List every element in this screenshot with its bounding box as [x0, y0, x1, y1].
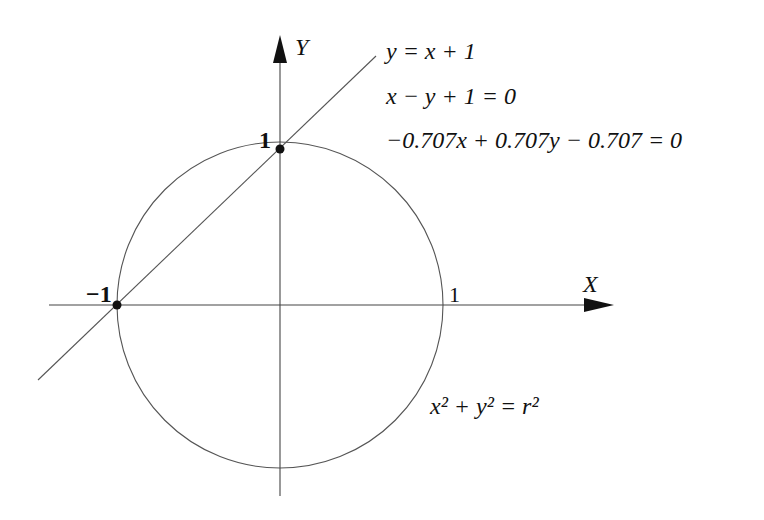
equation-normal-form: −0.707x + 0.707y − 0.707 = 0 — [386, 127, 682, 153]
circle-equation: x² + y² = r² — [429, 393, 539, 419]
y-axis-label: Y — [295, 34, 311, 60]
tick-label-y-1: 1 — [259, 127, 271, 153]
x-axis-label: X — [582, 271, 599, 297]
y-axis-arrow-icon — [273, 35, 287, 63]
diagram-canvas: Y X 1 −1 1 y = x + 1 x − y + 1 = 0 −0.70… — [0, 0, 764, 520]
point-neg1-0 — [113, 301, 122, 310]
tick-label-x-1: 1 — [449, 282, 460, 307]
equation-general-form: x − y + 1 = 0 — [385, 83, 516, 109]
line-y-equals-x-plus-1 — [38, 56, 376, 380]
x-axis-arrow-icon — [584, 298, 614, 312]
point-0-1 — [276, 145, 285, 154]
equation-slope-form: y = x + 1 — [384, 38, 476, 64]
tick-label-x-neg1: −1 — [86, 281, 112, 307]
